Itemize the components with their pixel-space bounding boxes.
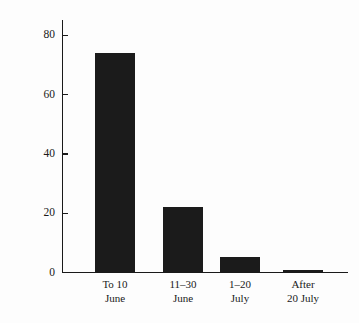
bar bbox=[283, 270, 323, 272]
x-tick-label: After20 July bbox=[258, 278, 348, 305]
y-tick-label: 80 bbox=[44, 26, 56, 43]
y-tick-label: 0 bbox=[49, 264, 55, 281]
y-tick-mark bbox=[62, 94, 68, 95]
bar bbox=[220, 257, 260, 272]
x-tick-label-line: 20 July bbox=[258, 292, 348, 306]
x-tick-label-line: After bbox=[258, 278, 348, 292]
plot-area: 020406080 To 10June11–30June1–20JulyAfte… bbox=[62, 20, 348, 272]
y-tick-mark bbox=[62, 272, 68, 273]
y-tick-mark bbox=[62, 35, 68, 36]
y-tick-label: 60 bbox=[44, 86, 56, 103]
bar bbox=[163, 207, 203, 272]
bar-chart-figure: Percent Attempting Second Brood 02040608… bbox=[0, 0, 359, 323]
y-tick-mark bbox=[62, 153, 68, 154]
y-axis-line bbox=[62, 20, 63, 272]
y-tick-mark bbox=[62, 213, 68, 214]
x-axis-line bbox=[62, 272, 348, 273]
y-tick-label: 20 bbox=[44, 204, 56, 221]
bar bbox=[95, 53, 135, 272]
y-tick-label: 40 bbox=[44, 145, 56, 162]
